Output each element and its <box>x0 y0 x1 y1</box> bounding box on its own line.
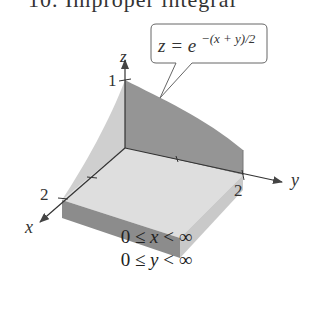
constraint-y: 0 ≤ y < ∞ <box>0 249 313 271</box>
z-tick-label: 1 <box>108 71 117 90</box>
y-tick-label: 2 <box>234 181 243 200</box>
z-axis-label: z <box>119 47 127 66</box>
constraint-x: 0 ≤ x < ∞ <box>0 226 313 248</box>
y-axis-label: y <box>289 170 299 190</box>
x-tick-label: 2 <box>40 185 49 204</box>
